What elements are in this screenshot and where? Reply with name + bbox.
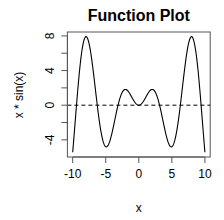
x-tick-label: -5	[100, 167, 111, 181]
x-tick-label: 5	[169, 167, 176, 181]
function-curve	[73, 37, 205, 153]
x-tick-label: -10	[64, 167, 82, 181]
x-axis: -10-50510	[64, 157, 212, 181]
chart-title: Function Plot	[88, 7, 191, 24]
x-axis-label: x	[136, 201, 142, 215]
y-axis-label: x * sin(x)	[12, 72, 26, 119]
y-tick-label: 0	[43, 102, 57, 109]
x-tick-label: 0	[135, 167, 142, 181]
plot-area-border	[67, 32, 210, 157]
y-tick-label: -4	[43, 134, 57, 145]
y-tick-label: 4	[43, 67, 57, 74]
y-tick-label: 8	[43, 32, 57, 39]
function-plot-chart: Function Plot -10-50510 -4048 x x * sin(…	[0, 0, 224, 220]
y-axis: -4048	[43, 32, 67, 145]
x-tick-label: 10	[198, 167, 212, 181]
